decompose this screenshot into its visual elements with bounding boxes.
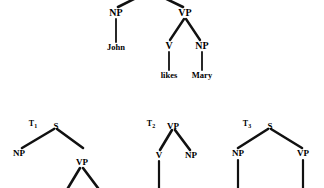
main-word-john: John [107,43,125,52]
edge-t3-s-to-np [238,129,268,148]
fragment-t1-tag-subscript: 1 [34,123,37,129]
fragment-t2-tag-subscript: 2 [152,123,155,129]
edge-vp-to-v [170,19,184,40]
main-v-label: V [165,41,172,51]
fragment-t1-child-vp-label: VP [76,158,88,167]
main-np-object-label: NP [195,41,208,51]
edge-s-to-np [118,0,148,7]
edge-t3-s-to-vp [271,129,302,148]
fragment-t1-child-np-label: NP [13,149,25,158]
fragment-t2-tag: T2 [147,120,155,128]
main-word-mary: Mary [192,71,212,80]
edge-t2-vp-to-v [160,130,172,150]
edge-t2-vp-to-np [175,130,190,150]
fragment-t3-tag: T3 [243,120,251,128]
edge-t1-vp-to-left-child [68,168,80,188]
edge-t1-s-to-vp [57,129,83,148]
fragment-t3-root-label: S [267,122,272,131]
edge-t1-vp-to-right-child [83,168,98,188]
edge-s-to-vp [152,0,183,7]
main-vp-label: VP [178,8,191,18]
parse-tree-figure: NP VP V NP John likes Mary T1 S NP VP T2… [0,0,324,188]
fragment-t2-child-v-label: V [156,151,163,160]
main-word-likes: likes [161,71,178,80]
fragment-t3-tag-subscript: 3 [248,123,251,129]
main-np-subject-label: NP [109,8,122,18]
edge-t1-s-to-np [22,129,54,148]
fragment-t3-child-vp-label: VP [297,149,309,158]
fragment-t1-root-label: S [53,122,58,131]
fragment-t2-root-label: VP [167,122,179,131]
tree-edges-layer [0,0,324,188]
edge-vp-to-np [186,19,200,40]
fragment-t3-child-np-label: NP [232,149,244,158]
fragment-t2-child-np-label: NP [185,151,197,160]
fragment-t1-tag: T1 [29,120,37,128]
fragment-t3-edges [238,129,303,188]
